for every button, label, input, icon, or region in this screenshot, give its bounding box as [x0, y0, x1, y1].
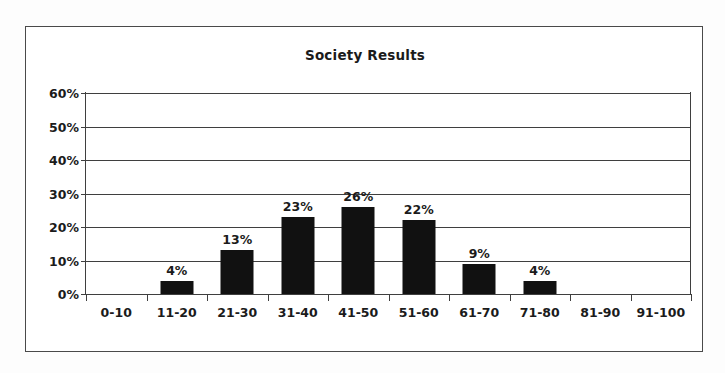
x-tick-label: 81-90: [580, 305, 620, 320]
bar-value-label: 9%: [469, 246, 490, 261]
y-tick-label: 0%: [58, 287, 79, 302]
chart-title: Society Results: [26, 47, 704, 63]
bar: [160, 281, 193, 294]
y-tick-label: 10%: [49, 253, 79, 268]
x-tick-label: 71-80: [520, 305, 560, 320]
bar-value-label: 22%: [404, 202, 434, 217]
y-tick-label: 30%: [49, 186, 79, 201]
x-tick-mark: [86, 294, 87, 301]
y-tick-label: 60%: [49, 86, 79, 101]
chart-page: Society Results 0%10%20%30%40%50%60% 4%1…: [0, 0, 725, 373]
bar-slot: [86, 93, 147, 294]
bar: [221, 250, 254, 294]
bar: [463, 264, 496, 294]
bar-slot: [631, 93, 692, 294]
bar-value-label: 13%: [222, 232, 252, 247]
x-tick-mark: [389, 294, 390, 301]
x-tick-mark: [570, 294, 571, 301]
x-tick-mark: [268, 294, 269, 301]
y-tick-label: 40%: [49, 153, 79, 168]
bar: [281, 217, 314, 294]
x-tick-label: 91-100: [636, 305, 685, 320]
bar-value-label: 26%: [343, 189, 373, 204]
x-tick-mark: [510, 294, 511, 301]
bar-slot: 22%: [389, 93, 450, 294]
x-tick-mark: [207, 294, 208, 301]
chart-frame: Society Results 0%10%20%30%40%50%60% 4%1…: [25, 26, 703, 352]
x-tick-mark: [328, 294, 329, 301]
x-tick-label: 11-20: [157, 305, 197, 320]
x-tick-label: 51-60: [399, 305, 439, 320]
bar-value-label: 4%: [529, 263, 550, 278]
bar: [402, 220, 435, 294]
bar-slot: 23%: [268, 93, 329, 294]
x-tick-label: 41-50: [338, 305, 378, 320]
bar-slot: 9%: [449, 93, 510, 294]
bar-slot: 4%: [510, 93, 571, 294]
bar-slot: 4%: [147, 93, 208, 294]
bar-slot: 26%: [328, 93, 389, 294]
bar: [523, 281, 556, 294]
x-tick-mark: [691, 294, 692, 301]
bar-slot: [570, 93, 631, 294]
x-tick-label: 31-40: [278, 305, 318, 320]
x-tick-mark: [631, 294, 632, 301]
x-tick-label: 61-70: [459, 305, 499, 320]
bar-slot: 13%: [207, 93, 268, 294]
x-tick-mark: [147, 294, 148, 301]
y-tick-label: 20%: [49, 220, 79, 235]
plot-area: 0%10%20%30%40%50%60% 4%13%23%26%22%9%4% …: [86, 93, 691, 294]
x-tick-mark: [449, 294, 450, 301]
x-tick-label: 0-10: [101, 305, 132, 320]
y-tick-label: 50%: [49, 119, 79, 134]
x-tick-label: 21-30: [217, 305, 257, 320]
bar: [342, 207, 375, 294]
bar-value-label: 4%: [166, 263, 187, 278]
bar-value-label: 23%: [283, 199, 313, 214]
